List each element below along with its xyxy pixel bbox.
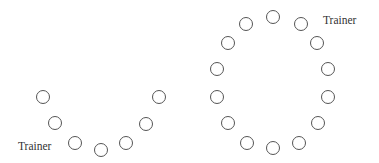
seat-circle — [221, 116, 235, 130]
seat-circle — [239, 17, 253, 31]
seat-circle — [48, 116, 62, 130]
seating-diagram: Trainer Trainer — [0, 0, 379, 163]
seat-circle — [321, 62, 335, 76]
seat-circle — [36, 90, 50, 104]
seat-circle — [68, 136, 82, 150]
seat-circle — [210, 90, 224, 104]
seat-circle — [266, 10, 280, 24]
seat-circle — [240, 136, 254, 150]
seat-circle — [210, 62, 224, 76]
seat-circle — [321, 90, 335, 104]
seat-circle — [294, 17, 308, 31]
seat-circle — [292, 136, 306, 150]
seat-circle — [266, 141, 280, 155]
seat-circle — [94, 143, 108, 157]
trainer-label-u-shape: Trainer — [18, 141, 51, 153]
seat-circle — [310, 36, 324, 50]
seat-circle — [139, 117, 153, 131]
seat-circle — [119, 136, 133, 150]
seat-circle — [152, 90, 166, 104]
trainer-label-circle: Trainer — [323, 15, 356, 27]
seat-circle — [221, 36, 235, 50]
seat-circle — [311, 116, 325, 130]
